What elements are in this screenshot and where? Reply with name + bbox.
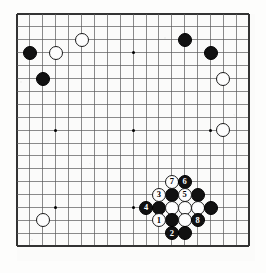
stone-white-move-1[interactable]: 1	[152, 213, 166, 227]
stone-black-move-2[interactable]: 2	[165, 226, 179, 240]
stone-white[interactable]	[75, 33, 89, 47]
stone-black[interactable]	[178, 226, 192, 240]
stone-move-number: 7	[166, 176, 178, 188]
stone-black[interactable]	[204, 46, 218, 60]
hoshi-point	[132, 129, 135, 132]
hoshi-point	[132, 51, 135, 54]
stone-move-number: 4	[140, 202, 152, 214]
stone-black[interactable]	[191, 188, 205, 202]
stone-white[interactable]	[191, 201, 205, 215]
stone-move-number: 3	[153, 189, 165, 201]
stone-black[interactable]	[204, 201, 218, 215]
go-board[interactable]: 76354182	[11, 8, 255, 260]
stone-move-number: 8	[192, 214, 204, 226]
stone-white-move-5[interactable]: 5	[178, 188, 192, 202]
stone-white-move-7[interactable]: 7	[165, 175, 179, 189]
stone-move-number: 2	[166, 227, 178, 239]
hoshi-point	[132, 206, 135, 209]
go-board-container[interactable]: 76354182	[11, 8, 255, 260]
stone-black[interactable]	[23, 46, 37, 60]
stone-black[interactable]	[152, 201, 166, 215]
stone-move-number: 1	[153, 214, 165, 226]
stone-white[interactable]	[178, 213, 192, 227]
stone-white[interactable]	[165, 201, 179, 215]
stone-move-number: 5	[179, 189, 191, 201]
hoshi-point	[54, 129, 57, 132]
stone-black[interactable]	[178, 33, 192, 47]
stone-white[interactable]	[178, 201, 192, 215]
stone-white[interactable]	[216, 72, 230, 86]
stone-black-move-6[interactable]: 6	[178, 175, 192, 189]
stone-move-number: 6	[179, 176, 191, 188]
stone-black-move-8[interactable]: 8	[191, 213, 205, 227]
stone-black-move-4[interactable]: 4	[139, 201, 153, 215]
stone-black[interactable]	[165, 188, 179, 202]
page-root: 76354182	[0, 0, 266, 273]
stone-white-move-3[interactable]: 3	[152, 188, 166, 202]
hoshi-point	[209, 129, 212, 132]
stone-black[interactable]	[36, 72, 50, 86]
stone-white[interactable]	[49, 46, 63, 60]
